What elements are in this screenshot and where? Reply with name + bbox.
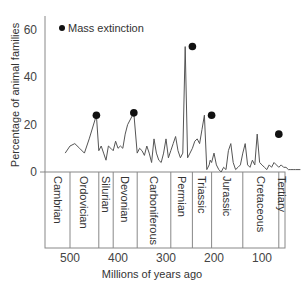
mass-extinction-marker-icon	[130, 109, 138, 117]
legend: Mass extinction	[59, 22, 144, 34]
chart-canvas: 0204060 Percentage of animal families Ma…	[0, 0, 301, 295]
period-label-silurian: Silurian	[100, 176, 112, 213]
x-tick-label: 100	[252, 251, 272, 265]
period-label-tertiary: Tertiary	[276, 176, 288, 213]
geologic-periods-strip: CambrianOrdovicianSilurianDevonianCarbon…	[45, 172, 288, 248]
y-axis-label: Percentage of animal families	[9, 22, 21, 167]
mass-extinction-marker-icon	[189, 43, 197, 51]
period-label-devonian: Devonian	[119, 176, 131, 222]
y-tick-label: 20	[24, 118, 38, 132]
period-label-triassic: Triassic	[196, 176, 208, 214]
y-tick-label: 0	[30, 165, 37, 179]
mass-extinction-marker-icon	[93, 111, 101, 119]
y-tick-label: 60	[24, 23, 38, 37]
period-label-cambrian: Cambrian	[52, 176, 64, 224]
extinction-chart: 0204060 Percentage of animal families Ma…	[0, 0, 301, 295]
legend-label: Mass extinction	[68, 22, 144, 34]
x-tick-label: 500	[60, 251, 80, 265]
y-tick-label: 40	[24, 70, 38, 84]
period-label-ordovician: Ordovician	[78, 176, 90, 229]
x-tick-label: 300	[156, 251, 176, 265]
x-tick-label: 200	[204, 251, 224, 265]
mass-extinction-markers	[93, 43, 283, 138]
extinction-rate-line	[65, 47, 300, 172]
y-tick-labels: 0204060	[24, 23, 38, 179]
period-label-carboniferous: Carboniferous	[148, 176, 160, 246]
legend-mass-extinction-marker-icon	[59, 25, 65, 31]
x-axis-label: Millions of years ago	[102, 268, 202, 280]
period-label-permian: Permian	[176, 176, 188, 217]
mass-extinction-marker-icon	[208, 111, 216, 119]
x-tick-label: 400	[108, 251, 128, 265]
x-tick-labels: 500400300200100	[60, 251, 272, 265]
period-label-jurassic: Jurassic	[221, 176, 233, 217]
mass-extinction-marker-icon	[275, 130, 283, 138]
period-label-cretaceous: Cretaceous	[255, 176, 267, 233]
